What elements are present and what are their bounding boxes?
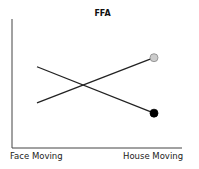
series-line-1 (37, 67, 154, 113)
plot-area (0, 0, 199, 169)
x-tick-label-house-moving: House Moving (123, 151, 183, 161)
series-marker-1 (150, 109, 158, 117)
series-line-0 (37, 58, 154, 103)
series-marker-0 (150, 54, 158, 62)
x-tick-label-face-moving: Face Moving (10, 151, 63, 161)
